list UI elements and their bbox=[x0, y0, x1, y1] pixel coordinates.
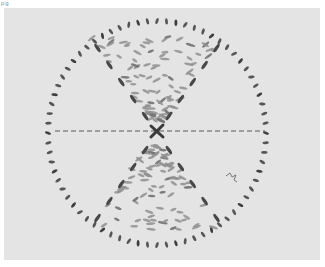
cell-illustration bbox=[0, 0, 325, 267]
small-speck bbox=[226, 173, 237, 182]
